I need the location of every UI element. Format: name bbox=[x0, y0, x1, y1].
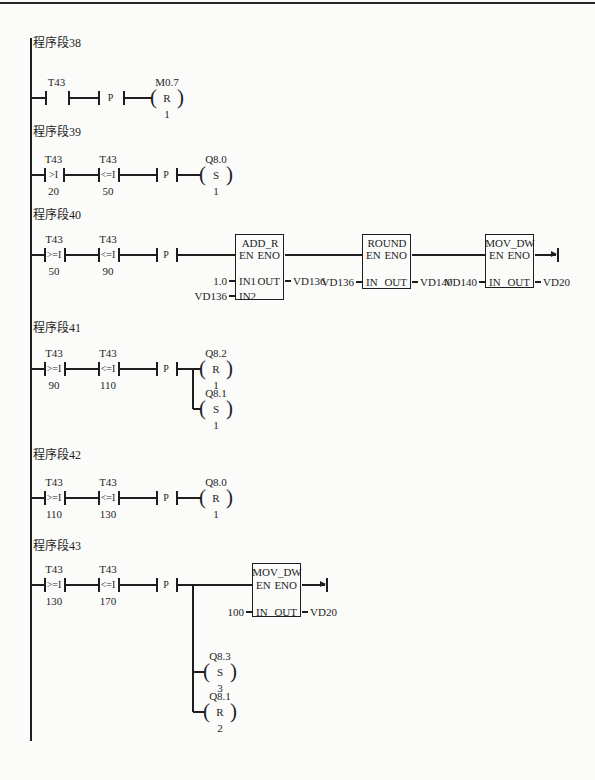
contact-operator: P bbox=[156, 362, 176, 376]
box-pin-eno: ENO bbox=[252, 579, 297, 591]
contact-address-label: T43 bbox=[24, 476, 84, 488]
coil-count-value: 2 bbox=[190, 722, 250, 734]
h-wire bbox=[63, 174, 98, 176]
contact-bar-right bbox=[118, 248, 120, 262]
h-wire bbox=[64, 584, 98, 586]
function-box-title: MOV_DW bbox=[485, 237, 535, 249]
rung-end-bar bbox=[326, 578, 328, 592]
contact-address-label: T43 bbox=[24, 153, 84, 165]
contact-address-label: T43 bbox=[78, 347, 138, 359]
contact-bar-right bbox=[176, 248, 178, 262]
h-wire bbox=[285, 254, 362, 256]
contact-compare-value: 110 bbox=[24, 508, 84, 520]
rung-end-bar bbox=[557, 248, 559, 262]
contact-compare-value: 130 bbox=[78, 508, 138, 520]
network-label: 程序段40 bbox=[33, 209, 81, 222]
pin-operand-value: VD20 bbox=[543, 276, 570, 288]
contact-compare-value: 170 bbox=[78, 595, 138, 607]
contact-operator: >I bbox=[44, 168, 63, 182]
network-label: 程序段38 bbox=[33, 37, 81, 50]
coil-letter: S bbox=[205, 666, 235, 678]
contact-bar-right bbox=[176, 362, 178, 376]
contact-operator: <=I bbox=[98, 491, 118, 505]
coil-count-value: 1 bbox=[186, 419, 246, 431]
contact-operator: >=I bbox=[44, 362, 64, 376]
network-label: 程序段41 bbox=[33, 322, 81, 335]
contact-operator: >=I bbox=[44, 491, 64, 505]
contact-operator: P bbox=[156, 168, 176, 182]
contact-address-label: T43 bbox=[24, 347, 84, 359]
box-pin-in2: IN2 bbox=[239, 290, 256, 302]
h-wire bbox=[412, 254, 485, 256]
coil-address-label: Q8.1 bbox=[190, 690, 250, 702]
h-wire bbox=[123, 97, 152, 99]
contact-compare-value: 90 bbox=[24, 379, 84, 391]
pin-operand-value: 100 bbox=[184, 606, 244, 618]
h-wire bbox=[68, 97, 98, 99]
coil-letter: R bbox=[201, 363, 231, 375]
contact-compare-value: 50 bbox=[78, 185, 138, 197]
coil-address-label: Q8.0 bbox=[186, 153, 246, 165]
contact-compare-value: 20 bbox=[24, 185, 84, 197]
h-wire bbox=[176, 497, 201, 499]
ladder-diagram-page: 程序段38T43P()RM0.71程序段39>IT4320<=IT4350P()… bbox=[0, 0, 595, 780]
function-box-title: ROUND bbox=[362, 237, 412, 249]
pin-connector-wire bbox=[229, 295, 235, 297]
box-pin-out: OUT bbox=[235, 275, 280, 287]
contact-operator: >=I bbox=[44, 248, 64, 262]
contact-operator: <=I bbox=[98, 362, 118, 376]
pin-operand-value: VD140 bbox=[417, 276, 477, 288]
contact-bar-right bbox=[176, 168, 178, 182]
contact-operator: P bbox=[156, 491, 176, 505]
contact-bar-right bbox=[176, 491, 178, 505]
page-top-rule bbox=[0, 2, 595, 4]
contact-operator: P bbox=[98, 91, 123, 105]
contact-compare-value: 50 bbox=[24, 265, 84, 277]
contact-bar-right bbox=[64, 248, 66, 262]
contact-bar-right bbox=[68, 91, 70, 105]
coil-letter: S bbox=[201, 403, 231, 415]
contact-compare-value: 110 bbox=[78, 379, 138, 391]
h-wire bbox=[118, 497, 156, 499]
contact-bar-right bbox=[64, 491, 66, 505]
coil-letter: R bbox=[152, 92, 182, 104]
h-wire bbox=[176, 174, 201, 176]
coil-count-value: 1 bbox=[137, 108, 197, 120]
pin-operand-value: VD136 bbox=[294, 276, 354, 288]
coil-count-value: 1 bbox=[186, 508, 246, 520]
function-box-title: MOV_DW bbox=[252, 566, 302, 578]
contact-operator: >=I bbox=[44, 578, 64, 592]
network-label: 程序段39 bbox=[33, 126, 81, 139]
h-wire bbox=[30, 584, 44, 586]
pin-operand-value: VD20 bbox=[310, 606, 337, 618]
coil-letter: S bbox=[201, 169, 231, 181]
box-pin-out: OUT bbox=[485, 276, 530, 288]
contact-address-label: T43 bbox=[78, 153, 138, 165]
h-wire bbox=[64, 368, 98, 370]
box-pin-out: OUT bbox=[252, 606, 297, 618]
contact-operator: <=I bbox=[98, 578, 118, 592]
contact-operator: <=I bbox=[98, 168, 118, 182]
pin-connector-wire bbox=[285, 280, 291, 282]
contact-bar-right bbox=[118, 491, 120, 505]
pin-connector-wire bbox=[302, 611, 308, 613]
h-wire bbox=[118, 174, 156, 176]
contact-operator: <=I bbox=[98, 248, 118, 262]
h-wire bbox=[64, 254, 98, 256]
contact-address-label: T43 bbox=[78, 233, 138, 245]
pin-operand-value: 1.0 bbox=[167, 275, 227, 287]
h-wire bbox=[30, 174, 44, 176]
box-pin-eno: ENO bbox=[362, 249, 407, 261]
contact-bar-right bbox=[64, 578, 66, 592]
h-wire bbox=[118, 584, 156, 586]
h-wire bbox=[30, 368, 44, 370]
h-wire bbox=[30, 97, 45, 99]
contact-bar-right bbox=[123, 91, 125, 105]
coil-letter: R bbox=[205, 706, 235, 718]
coil-address-label: M0.7 bbox=[137, 76, 197, 88]
pin-operand-value: VD136 bbox=[167, 290, 227, 302]
h-wire bbox=[30, 497, 44, 499]
contact-address-label: T43 bbox=[78, 563, 138, 575]
coil-address-label: Q8.2 bbox=[186, 347, 246, 359]
coil-count-value: 1 bbox=[186, 185, 246, 197]
